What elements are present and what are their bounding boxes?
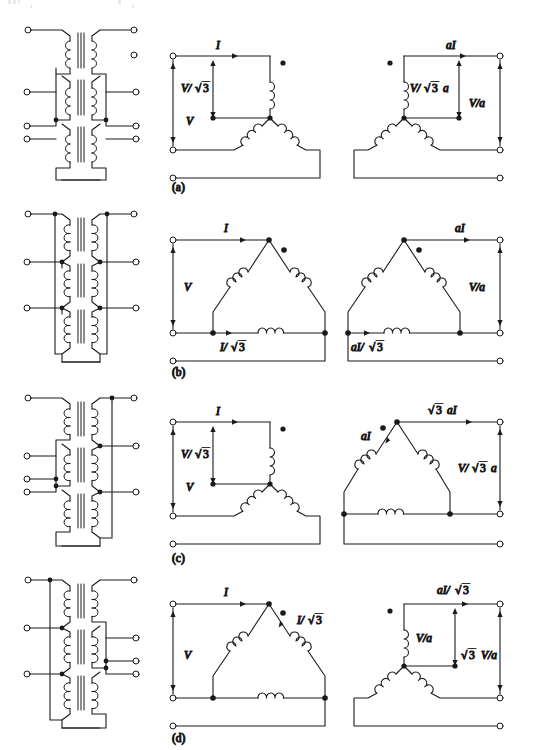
svg-text:V/: V/ <box>458 462 470 474</box>
label-b-primary-phase-current: I/ √ 3 <box>219 341 246 354</box>
svg-text:I/: I/ <box>296 614 306 626</box>
svg-text:aI: aI <box>447 404 458 416</box>
svg-text:3: 3 <box>316 614 322 626</box>
label-d-primary-line-current: I <box>223 586 229 598</box>
svg-text:√: √ <box>461 649 468 661</box>
label-a-secondary-line-voltage: V/a <box>469 97 485 109</box>
svg-text:√: √ <box>308 614 315 626</box>
svg-text:V/a: V/a <box>481 649 497 661</box>
svg-text:a: a <box>443 82 449 94</box>
label-a-secondary-phase-voltage: V/ √ 3 a <box>410 82 449 95</box>
svg-text:aI/: aI/ <box>351 341 366 353</box>
svg-text:V/: V/ <box>181 448 193 460</box>
caption-a: (a) <box>172 181 185 194</box>
svg-text:3: 3 <box>432 82 438 94</box>
svg-text:a: a <box>491 462 497 474</box>
label-b-secondary-line-current: aI <box>455 222 466 234</box>
label-b-secondary-line-voltage: V/a <box>469 281 485 293</box>
label-b-secondary-phase-current: aI/ √ 3 <box>351 341 384 354</box>
label-c-secondary-phase-current: aI <box>361 430 372 442</box>
label-d-secondary-phase-voltage: V/a <box>416 632 432 644</box>
svg-text:√: √ <box>455 584 462 596</box>
secondary-delta-c: √ 3 aI aI V/ √ 3 a <box>341 404 503 548</box>
label-c-secondary-line-current: √ 3 aI <box>428 404 458 417</box>
label-c-primary-line-voltage: V <box>186 481 195 493</box>
schematic-c <box>24 395 139 546</box>
panel-a: I V V/ √ 3 <box>0 8 533 196</box>
secondary-wye-a: aI V/a V/ √ 3 a <box>354 39 503 181</box>
svg-text:√: √ <box>231 341 238 353</box>
label-a-primary-line-current: I <box>215 39 221 51</box>
label-d-secondary-line-current: aI/ √ 3 <box>437 584 470 597</box>
label-c-primary-phase-voltage: V/ √ 3 <box>181 448 210 461</box>
svg-text:√: √ <box>472 462 479 474</box>
label-d-primary-line-voltage: V <box>184 649 193 661</box>
svg-text:3: 3 <box>463 584 469 596</box>
panel-b: I V I/ √ 3 aI V/a <box>0 196 533 384</box>
svg-text:3: 3 <box>436 404 442 416</box>
svg-text:3: 3 <box>203 82 209 94</box>
svg-text:3: 3 <box>377 341 383 353</box>
svg-text:I/: I/ <box>219 341 229 353</box>
secondary-delta-b: aI V/a aI/ √ 3 <box>345 222 503 364</box>
svg-text:3: 3 <box>480 462 486 474</box>
label-b-primary-line-voltage: V <box>184 281 193 293</box>
svg-text:√: √ <box>428 404 435 416</box>
svg-text:√: √ <box>195 448 202 460</box>
caption-d: (d) <box>172 732 186 745</box>
primary-delta-d: I V I/ √ 3 <box>170 586 328 729</box>
label-a-primary-line-voltage: V <box>186 115 195 127</box>
top-crop-artifact <box>0 0 533 8</box>
caption-b: (b) <box>172 366 186 379</box>
label-d-secondary-line-voltage: √ 3 V/a <box>461 649 497 662</box>
secondary-wye-d: aI/ √ 3 V/a √ 3 V/a <box>354 584 503 730</box>
schematic-b <box>24 211 139 362</box>
svg-text:aI/: aI/ <box>437 584 452 596</box>
svg-text:√: √ <box>424 82 431 94</box>
primary-wye-a: I V V/ √ 3 <box>170 39 320 181</box>
label-c-primary-line-current: I <box>215 405 221 417</box>
svg-text:V/: V/ <box>410 82 422 94</box>
svg-text:3: 3 <box>203 448 209 460</box>
label-d-primary-phase-current: I/ √ 3 <box>296 614 323 627</box>
label-a-primary-phase-voltage: V/ √ 3 <box>181 82 210 95</box>
panel-c: I V V/ √ 3 √ <box>0 384 533 572</box>
svg-text:V/: V/ <box>181 82 193 94</box>
schematic-d <box>24 577 139 728</box>
label-c-secondary-line-voltage: V/ √ 3 a <box>458 462 497 475</box>
svg-text:√: √ <box>369 341 376 353</box>
primary-delta-b: I V I/ √ 3 <box>170 222 328 364</box>
schematic-a <box>24 27 139 180</box>
svg-text:√: √ <box>195 82 202 94</box>
svg-text:3: 3 <box>469 649 475 661</box>
label-b-primary-line-current: I <box>223 222 229 234</box>
panel-d: I V I/ √ 3 aI/ <box>0 564 533 750</box>
label-a-secondary-line-current: aI <box>446 39 457 51</box>
svg-text:3: 3 <box>239 341 245 353</box>
primary-wye-c: I V V/ √ 3 <box>170 405 320 547</box>
